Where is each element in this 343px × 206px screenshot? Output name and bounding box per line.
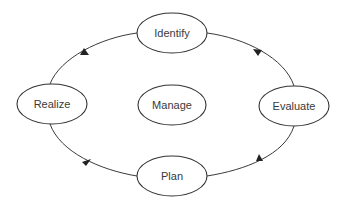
node-plan: Plan — [137, 156, 207, 196]
edge-realize-identify — [50, 33, 137, 84]
arrowhead-evaluate-plan-icon — [256, 154, 263, 161]
node-evaluate: Evaluate — [259, 86, 329, 126]
node-manage: Manage — [138, 85, 206, 125]
node-realize-label: Realize — [34, 98, 71, 110]
node-evaluate-label: Evaluate — [273, 100, 316, 112]
arrowhead-identify-evaluate-icon — [253, 49, 262, 56]
node-identify-label: Identify — [154, 27, 190, 39]
edge-evaluate-plan — [207, 126, 294, 176]
node-identify: Identify — [137, 13, 207, 53]
node-manage-label: Manage — [152, 99, 192, 111]
node-realize: Realize — [17, 84, 87, 124]
edge-plan-realize — [50, 124, 137, 176]
node-plan-label: Plan — [161, 170, 183, 182]
cycle-diagram: Identify Evaluate Plan Realize Manage — [0, 0, 343, 206]
edge-identify-evaluate — [207, 33, 294, 86]
